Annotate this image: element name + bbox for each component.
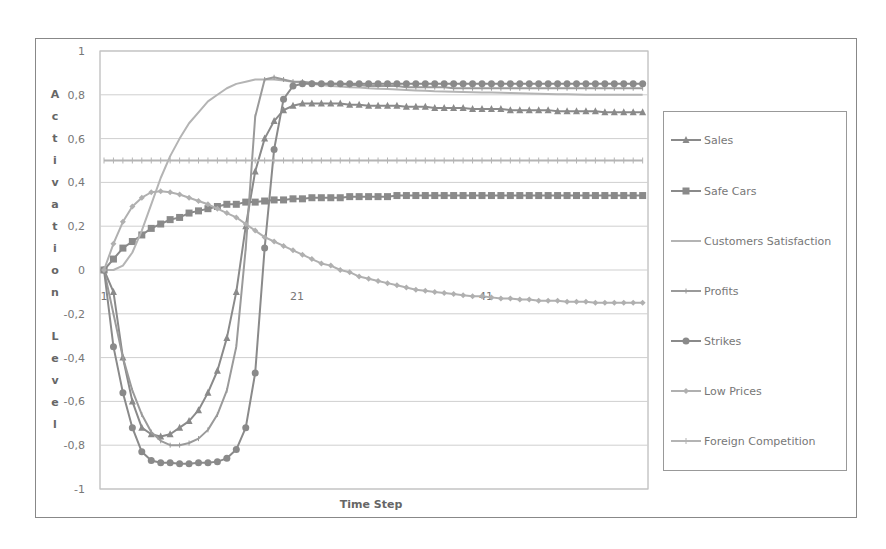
legend: SalesSafe CarsCustomers SatisfactionProf… (663, 111, 847, 471)
y-axis-title-letter: i (53, 154, 57, 167)
y-tick-label: -0,6 (64, 395, 85, 408)
y-axis-title-letter: t (52, 220, 57, 233)
y-axis-title-letter: L (51, 330, 58, 343)
legend-label: Profits (704, 285, 738, 298)
legend-item-customers-satisfaction: Customers Satisfaction (670, 233, 831, 249)
x-tick-label: 21 (290, 290, 304, 303)
legend-item-profits: Profits (670, 283, 738, 299)
y-tick-label: 0 (78, 264, 85, 277)
y-axis-title-letter: n (51, 286, 59, 299)
legend-label: Foreign Competition (704, 435, 816, 448)
y-axis-title-letter: v (51, 374, 59, 387)
y-axis-title-letter: t (52, 132, 57, 145)
legend-label: Sales (704, 134, 733, 147)
y-tick-label: 0,2 (68, 220, 86, 233)
y-axis-title-letter: e (51, 396, 58, 409)
y-axis-title-letter: e (51, 352, 58, 365)
legend-item-strikes: Strikes (670, 333, 741, 349)
legend-swatch-icon (670, 285, 702, 297)
y-axis-title: ActivationLevel (51, 88, 60, 431)
legend-item-sales: Sales (670, 132, 733, 148)
legend-label: Safe Cars (704, 185, 757, 198)
y-tick-label: 0,8 (68, 89, 86, 102)
y-tick-label: -0,8 (64, 439, 85, 452)
y-tick-label: 1 (78, 45, 85, 58)
x-axis-title: Time Step (340, 498, 403, 511)
legend-swatch-icon (670, 435, 702, 447)
series-safe-cars (101, 192, 647, 273)
y-axis-ticks: 10,80,60,40,20-0,2-0,4-0,6-0,8-1 (64, 45, 85, 496)
legend-swatch-icon (670, 134, 702, 146)
gridlines (100, 51, 648, 489)
legend-item-low-prices: Low Prices (670, 383, 762, 399)
legend-swatch-icon (670, 335, 702, 347)
series-customers-satisfaction (104, 79, 643, 270)
y-axis-title-letter: c (52, 110, 59, 123)
y-axis-title-letter: i (53, 242, 57, 255)
y-axis-title-letter: A (51, 88, 60, 101)
legend-label: Strikes (704, 335, 741, 348)
y-tick-label: 0,6 (68, 133, 86, 146)
y-tick-label: 0,4 (68, 176, 86, 189)
series-foreign-competition (104, 158, 643, 164)
y-axis-title-letter: o (51, 264, 59, 277)
y-tick-label: -1 (74, 483, 85, 496)
legend-label: Customers Satisfaction (704, 235, 831, 248)
legend-item-safe-cars: Safe Cars (670, 183, 757, 199)
series-low-prices (101, 188, 646, 306)
legend-swatch-icon (670, 385, 702, 397)
y-tick-label: -0,4 (64, 352, 85, 365)
y-axis-title-letter: v (51, 176, 59, 189)
y-tick-label: -0,2 (64, 308, 85, 321)
legend-label: Low Prices (704, 385, 762, 398)
y-axis-title-letter: l (53, 418, 57, 431)
legend-item-foreign-competition: Foreign Competition (670, 433, 816, 449)
legend-swatch-icon (670, 235, 702, 247)
y-axis-title-letter: a (51, 198, 58, 211)
legend-swatch-icon (670, 185, 702, 197)
series-lines (101, 75, 647, 468)
